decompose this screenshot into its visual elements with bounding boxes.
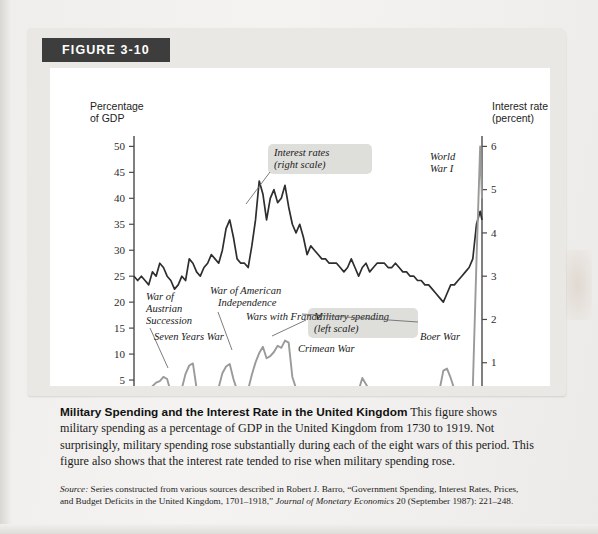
right-tick-label: 6 xyxy=(491,140,497,152)
annot-war-austrian-line3: Succession xyxy=(146,315,192,326)
annot-war-american-line1: War of American xyxy=(210,285,281,296)
annot-war-american-line2: Independence xyxy=(217,297,277,308)
right-tick-label: 1 xyxy=(491,356,497,368)
left-tick-label: 15 xyxy=(114,322,126,334)
figure-number-badge: FIGURE 3-10 xyxy=(42,38,170,62)
annot-wars-with-france: Wars with France xyxy=(246,311,321,322)
source-text-2: 20 (September 1987): 221–248. xyxy=(394,496,513,506)
left-tick-label: 30 xyxy=(114,244,126,256)
left-tick-label: 40 xyxy=(114,192,126,204)
interest-rate-line xyxy=(134,181,482,302)
left-tick-label: 10 xyxy=(114,348,126,360)
right-axis-title-line2: (percent) xyxy=(492,112,534,124)
left-axis-title-line1: Percentage xyxy=(90,100,144,112)
annot-wwi-line1: World xyxy=(430,151,456,162)
annot-wwi-line2: War I xyxy=(430,163,454,174)
source-journal: Journal of Monetary Economics xyxy=(275,496,394,506)
military-label-line1: Military spending xyxy=(313,311,389,322)
right-tick-label: 2 xyxy=(491,313,497,325)
annot-boer-war: Boer War xyxy=(420,331,461,342)
left-tick-label: 25 xyxy=(114,270,126,282)
interest-label-line2: (right scale) xyxy=(274,159,326,171)
left-tick-label: 50 xyxy=(114,140,126,152)
right-tick-label: 4 xyxy=(491,227,497,239)
figure-card: FIGURE 3-10 0510152025303540455001234561… xyxy=(28,28,566,396)
left-tick-label: 5 xyxy=(120,374,126,386)
annot-war-austrian-line1: War of xyxy=(146,291,176,302)
scan-edge-left xyxy=(0,0,12,534)
figure-source: Source: Series constructed from various … xyxy=(60,484,530,507)
left-axis-title-line2: of GDP xyxy=(90,112,124,124)
left-tick-label: 35 xyxy=(114,218,126,230)
annot-seven-years-war: Seven Years War xyxy=(154,331,225,342)
chart-plot-area: 0510152025303540455001234561730175017701… xyxy=(50,68,550,386)
annot-war-austrian-line2: Austrian xyxy=(145,303,182,314)
military-label-line2: (left scale) xyxy=(314,323,359,335)
scan-smudge xyxy=(562,250,592,320)
left-tick-label: 20 xyxy=(114,296,126,308)
interest-label-line1: Interest rates xyxy=(273,147,329,158)
figure-caption: Military Spending and the Interest Rate … xyxy=(60,404,538,470)
right-tick-label: 3 xyxy=(491,270,497,282)
right-axis-title-line1: Interest rate xyxy=(492,100,548,112)
right-tick-label: 5 xyxy=(491,183,497,195)
chart-svg: 0510152025303540455001234561730175017701… xyxy=(50,68,550,386)
military-label-leader xyxy=(272,320,306,336)
scan-edge-bottom xyxy=(0,524,598,534)
left-tick-label: 45 xyxy=(114,166,126,178)
caption-title: Military Spending and the Interest Rate … xyxy=(60,405,407,419)
annot-crimean-war: Crimean War xyxy=(298,343,355,354)
source-label: Source: xyxy=(60,484,88,494)
